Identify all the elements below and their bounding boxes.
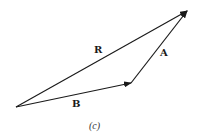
- vector-a-arrow: [131, 11, 187, 83]
- vector-r-arrow: [16, 11, 187, 107]
- figure-caption: (c): [89, 121, 100, 131]
- vector-diagram: R A B (c): [0, 0, 198, 140]
- vector-r-label: R: [94, 45, 102, 55]
- vector-diagram-svg: [0, 0, 198, 140]
- vector-a-label: A: [160, 48, 168, 58]
- vector-b-label: B: [72, 99, 80, 109]
